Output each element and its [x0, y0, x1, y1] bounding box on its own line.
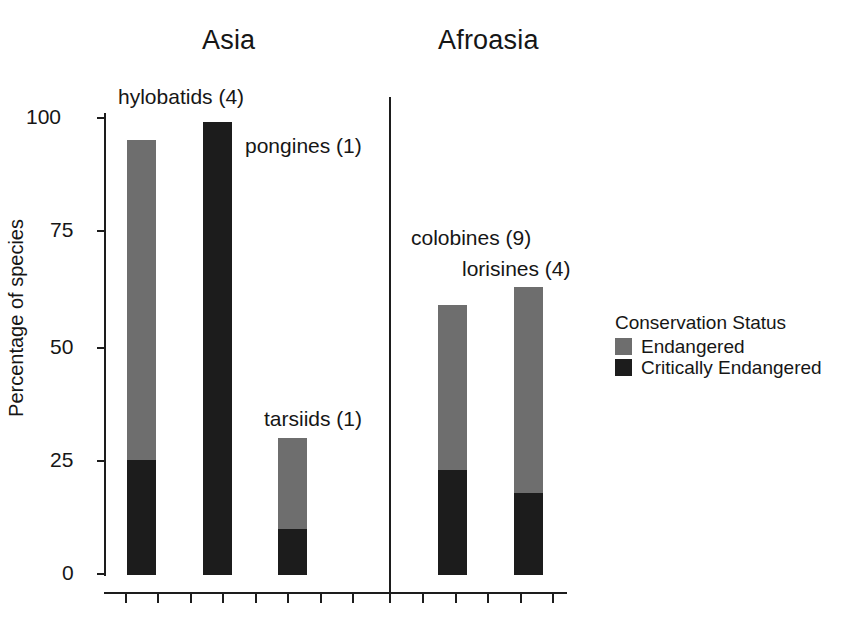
x-axis-tick-12: [487, 594, 489, 603]
x-axis-tick-9: [389, 594, 391, 603]
y-axis-line: [104, 113, 106, 576]
x-axis-tick-5: [255, 594, 257, 603]
bar-label-hylobatids: hylobatids (4): [118, 86, 244, 107]
y-axis-tick-0: [97, 573, 105, 575]
x-axis-tick-8: [352, 594, 354, 603]
y-axis-tick-50: [97, 347, 105, 349]
legend-label-critically-endangered: Critically Endangered: [641, 358, 822, 377]
legend-label-endangered: Endangered: [641, 337, 745, 356]
x-axis-tick-6: [287, 594, 289, 603]
bar-lorisines[interactable]: [514, 287, 543, 575]
y-axis-label-50: 50: [50, 335, 73, 359]
x-axis-tick-2: [157, 594, 159, 603]
x-axis-tick-3: [190, 594, 192, 603]
bar-segment-critically-endangered: [278, 529, 307, 575]
group-title-asia: Asia: [202, 27, 255, 54]
bar-label-pongines: pongines (1): [245, 135, 362, 156]
bar-tarsiids[interactable]: [278, 438, 307, 575]
y-axis-label-0: 0: [62, 561, 74, 585]
y-axis-tick-75: [97, 230, 105, 232]
x-axis-tick-4: [222, 594, 224, 603]
bar-label-tarsiids: tarsiids (1): [264, 408, 362, 429]
bar-segment-critically-endangered: [127, 460, 156, 575]
bar-segment-critically-endangered: [203, 122, 232, 575]
x-axis-line: [104, 592, 567, 594]
bar-segment-endangered: [127, 140, 156, 460]
y-axis-tick-25: [97, 460, 105, 462]
group-title-afroasia: Afroasia: [438, 27, 539, 54]
bar-colobines[interactable]: [438, 305, 467, 575]
bar-segment-endangered: [514, 287, 543, 493]
y-axis-label-100: 100: [26, 105, 61, 129]
bar-label-colobines: colobines (9): [411, 227, 531, 248]
bar-segment-endangered: [278, 438, 307, 529]
chart-canvas: Asia Afroasia 100 75 50 25 0 Percentage …: [0, 0, 867, 630]
y-axis-tick-100: [97, 117, 105, 119]
y-axis-label-25: 25: [50, 448, 73, 472]
legend-title: Conservation Status: [615, 312, 822, 334]
region-divider: [389, 97, 391, 593]
legend-item-endangered[interactable]: Endangered: [615, 337, 822, 356]
y-axis-title: Percentage of species: [5, 219, 28, 417]
bar-segment-endangered: [438, 305, 467, 470]
legend: Conservation Status Endangered Criticall…: [615, 312, 822, 377]
legend-swatch-endangered: [615, 338, 632, 355]
legend-swatch-critically-endangered: [615, 359, 632, 376]
legend-item-critically-endangered[interactable]: Critically Endangered: [615, 358, 822, 377]
bar-segment-critically-endangered: [514, 493, 543, 575]
x-axis-tick-1: [125, 594, 127, 603]
x-axis-tick-14: [552, 594, 554, 603]
x-axis-tick-11: [455, 594, 457, 603]
x-axis-tick-10: [422, 594, 424, 603]
bar-segment-critically-endangered: [438, 470, 467, 575]
y-axis-label-75: 75: [50, 218, 73, 242]
x-axis-tick-7: [320, 594, 322, 603]
bar-pongines[interactable]: [203, 122, 232, 575]
bar-label-lorisines: lorisines (4): [462, 258, 571, 279]
bar-hylobatids[interactable]: [127, 140, 156, 575]
x-axis-tick-13: [520, 594, 522, 603]
